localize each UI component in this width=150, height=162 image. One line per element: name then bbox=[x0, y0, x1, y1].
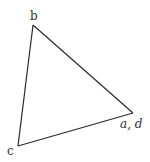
vertex-label-c: c bbox=[7, 144, 14, 158]
vertex-label-a-d: a, d bbox=[120, 117, 143, 131]
edge-ad-c bbox=[18, 113, 133, 146]
triangle-diagram: b a, d c bbox=[0, 0, 150, 162]
edge-c-b bbox=[18, 25, 33, 146]
edge-b-ad bbox=[33, 25, 133, 113]
vertex-label-b: b bbox=[30, 9, 38, 23]
